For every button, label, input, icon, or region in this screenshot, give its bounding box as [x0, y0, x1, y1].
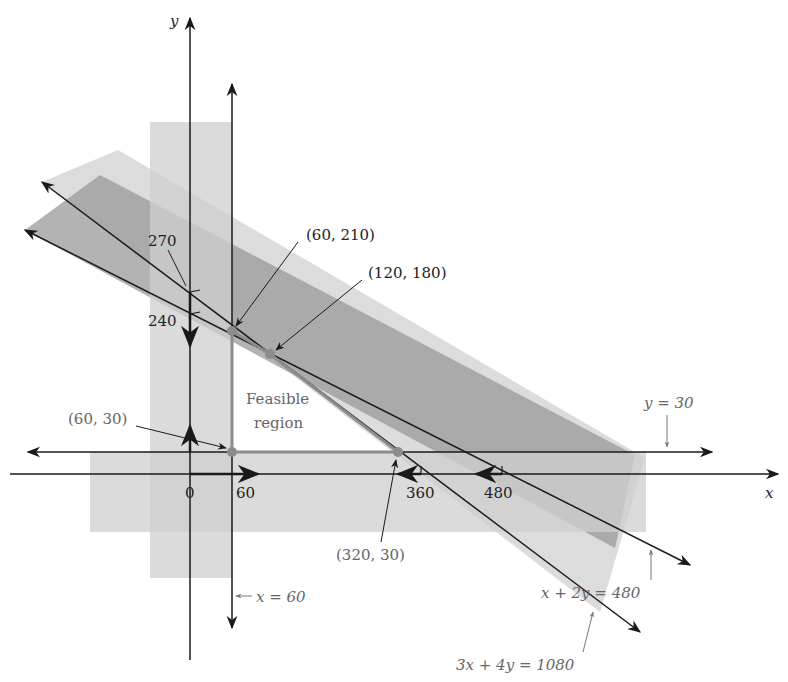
- origin-label: 0: [185, 484, 195, 502]
- vertex-label-320-30: (320, 30): [336, 546, 405, 564]
- vertex-label-120-180: (120, 180): [368, 264, 447, 282]
- label-y-equals-30: y = 30: [643, 394, 694, 412]
- label-3x-plus-4y-1080: 3x + 4y = 1080: [456, 656, 575, 674]
- vertex-120-180: [265, 349, 275, 359]
- feasible-region-label-line2: region: [254, 414, 303, 432]
- y-tick-240: 240: [148, 312, 177, 330]
- vertex-60-30: [227, 447, 237, 457]
- y-tick-270: 270: [148, 232, 177, 250]
- feasible-region-label-line1: Feasible: [246, 390, 309, 408]
- pointer-3x-plus-4y-1080: [583, 612, 593, 652]
- x-tick-360: 360: [406, 484, 435, 502]
- x-tick-60: 60: [236, 484, 255, 502]
- feasible-region-diagram: y x 0 60 360 480 270 240 Fe: [0, 0, 788, 682]
- label-x-equals-60: x = 60: [256, 588, 306, 606]
- vertex-60-210: [227, 326, 237, 336]
- x-axis-label: x: [765, 484, 774, 502]
- vertex-label-60-210: (60, 210): [306, 226, 375, 244]
- vertex-320-30: [393, 447, 403, 457]
- shaded-bands: [25, 122, 646, 612]
- label-x-plus-2y-480: x + 2y = 480: [541, 584, 641, 602]
- y-axis-label: y: [169, 12, 179, 30]
- vertex-label-60-30: (60, 30): [68, 410, 127, 428]
- band-y30: [90, 452, 646, 532]
- diagram-canvas: y x 0 60 360 480 270 240 Fe: [0, 0, 788, 682]
- x-tick-480: 480: [484, 484, 513, 502]
